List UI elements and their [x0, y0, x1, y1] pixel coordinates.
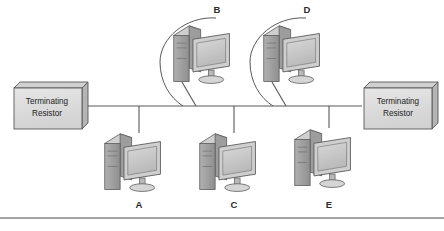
computer-a-label: A	[127, 199, 151, 210]
network-diagram-page: Terminating Resistor Terminating Resisto…	[0, 0, 444, 231]
left-terminator-line1: Terminating	[12, 96, 82, 108]
drop-line-computer-b	[182, 82, 196, 106]
computer-a-icon	[105, 134, 161, 192]
computer-c-label: C	[222, 199, 246, 210]
computer-c-icon	[200, 134, 256, 192]
right-terminator-line2: Resistor	[363, 108, 433, 120]
computer-d-icon	[264, 26, 320, 84]
right-terminator-line1: Terminating	[363, 96, 433, 108]
computer-e-label: E	[317, 199, 341, 210]
left-terminator-line2: Resistor	[12, 108, 82, 120]
computer-b-icon	[174, 26, 230, 84]
drop-line-computer-d	[272, 82, 286, 106]
left-terminator-label: Terminating Resistor	[12, 96, 82, 119]
computer-e-icon	[295, 130, 351, 188]
computer-d-label: D	[295, 4, 319, 15]
computer-b-label: B	[205, 4, 229, 15]
right-terminator-label: Terminating Resistor	[363, 96, 433, 119]
